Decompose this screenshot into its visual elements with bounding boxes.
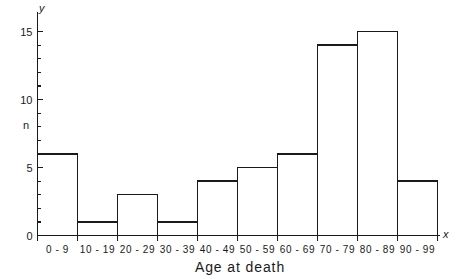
y-tick-label-5: 5 bbox=[26, 162, 32, 174]
y-tick-label-15: 15 bbox=[20, 26, 32, 38]
bar-80-89 bbox=[358, 32, 398, 236]
x-category-label-0-9: 0 - 9 bbox=[46, 244, 69, 255]
x-category-label-70-79: 70 - 79 bbox=[320, 244, 355, 255]
x-category-label-50-59: 50 - 59 bbox=[240, 244, 275, 255]
bar-30-39 bbox=[158, 222, 198, 236]
x-axis-name-label: x bbox=[442, 228, 449, 240]
bar-50-59 bbox=[238, 168, 278, 236]
y-tick-label-10: 10 bbox=[20, 94, 32, 106]
bar-0-9 bbox=[38, 154, 78, 236]
x-category-label-60-69: 60 - 69 bbox=[280, 244, 315, 255]
y-axis-tick-labels: 051015 bbox=[20, 26, 32, 242]
y-tick-label-0: 0 bbox=[26, 230, 32, 242]
bar-40-49 bbox=[198, 181, 238, 235]
x-category-label-10-19: 10 - 19 bbox=[80, 244, 115, 255]
bar-70-79 bbox=[318, 45, 358, 235]
bar-90-99 bbox=[398, 181, 438, 235]
x-category-label-20-29: 20 - 29 bbox=[120, 244, 155, 255]
chart-canvas: 051015 0 - 910 - 1920 - 2930 - 3940 - 49… bbox=[0, 0, 471, 279]
y-axis-label: n bbox=[23, 119, 29, 131]
x-category-label-80-89: 80 - 89 bbox=[360, 244, 395, 255]
bars-group bbox=[38, 32, 438, 236]
bar-60-69 bbox=[278, 154, 318, 236]
histogram-chart: 051015 0 - 910 - 1920 - 2930 - 3940 - 49… bbox=[0, 0, 471, 279]
x-category-label-30-39: 30 - 39 bbox=[160, 244, 195, 255]
x-category-label-90-99: 90 - 99 bbox=[400, 244, 435, 255]
y-axis-name-label: y bbox=[38, 2, 46, 14]
bar-10-19 bbox=[78, 222, 118, 236]
x-category-label-40-49: 40 - 49 bbox=[200, 244, 235, 255]
x-axis-category-labels: 0 - 910 - 1920 - 2930 - 3940 - 4950 - 59… bbox=[46, 244, 435, 255]
bar-20-29 bbox=[118, 195, 158, 236]
x-axis-title: Age at death bbox=[195, 259, 285, 275]
